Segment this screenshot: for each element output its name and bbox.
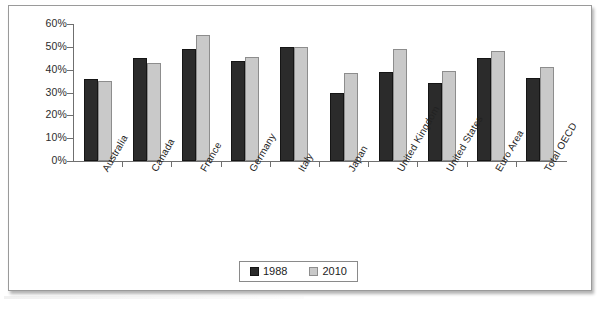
bar-1988-euro-area [477, 58, 491, 161]
bar-1988-japan [330, 93, 344, 162]
x-axis-line [73, 161, 567, 162]
legend-swatch-1988 [250, 267, 259, 276]
chart-legend: 1988 2010 [239, 261, 358, 282]
bar-group [231, 24, 259, 161]
y-axis-tick-label: 20% [21, 108, 67, 120]
y-axis-tick-label: 0% [21, 154, 67, 166]
bar-1988-australia [84, 79, 98, 161]
bar-group [526, 24, 554, 161]
bar-2010-italy [294, 47, 308, 161]
y-axis-tick-label: 50% [21, 40, 67, 52]
bar-1988-total-oecd [526, 78, 540, 161]
bar-group [182, 24, 210, 161]
bar-1988-canada [133, 58, 147, 161]
bar-group [379, 24, 407, 161]
y-axis-tick-label: 40% [21, 63, 67, 75]
y-axis-tick-label: 10% [21, 131, 67, 143]
bar-group [84, 24, 112, 161]
bar-2010-united-kingdom [393, 49, 407, 161]
bar-group [280, 24, 308, 161]
x-axis-tick [368, 162, 369, 167]
bar-2010-france [196, 35, 210, 161]
bar-2010-japan [344, 73, 358, 161]
x-axis-tick [417, 162, 418, 167]
chart-figure-frame: 60%50%40%30%20%10%0% AustraliaCanadaFran… [8, 5, 592, 291]
bar-1988-france [182, 49, 196, 161]
x-axis-tick [516, 162, 517, 167]
x-axis-tick [270, 162, 271, 167]
y-axis-tick [67, 161, 74, 162]
bar-group [330, 24, 358, 161]
y-axis-tick-label: 30% [21, 86, 67, 98]
scan-artifact [4, 296, 304, 299]
y-axis-tick-label: 60% [21, 17, 67, 29]
bar-group [477, 24, 505, 161]
x-axis-tick [467, 162, 468, 167]
legend-item-1988: 1988 [250, 265, 287, 277]
x-axis-tick [171, 162, 172, 167]
legend-label-2010: 2010 [322, 265, 346, 277]
legend-item-2010: 2010 [309, 265, 346, 277]
bar-2010-germany [245, 57, 259, 161]
bar-group [428, 24, 456, 161]
bar-1988-italy [280, 47, 294, 161]
legend-swatch-2010 [309, 267, 318, 276]
plot-area [73, 24, 565, 161]
x-axis-tick [319, 162, 320, 167]
bar-group [133, 24, 161, 161]
bar-1988-united-kingdom [379, 72, 393, 161]
bar-2010-euro-area [491, 51, 505, 161]
bar-2010-canada [147, 63, 161, 161]
x-axis-tick [122, 162, 123, 167]
x-axis-tick [221, 162, 222, 167]
legend-label-1988: 1988 [263, 265, 287, 277]
y-axis-tick-labels: 60%50%40%30%20%10%0% [17, 6, 67, 206]
bar-2010-united-states [442, 71, 456, 161]
bar-2010-total-oecd [540, 67, 554, 161]
bar-1988-germany [231, 61, 245, 161]
